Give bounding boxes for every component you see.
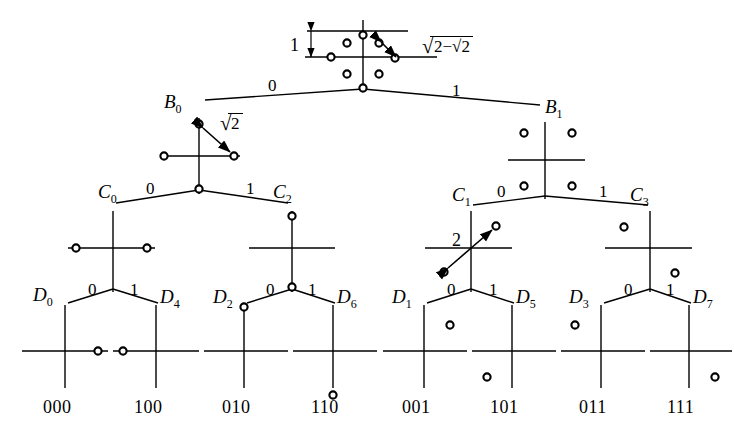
branch-label-C0-to-D0: 0 [88, 281, 97, 298]
node-letter-D2: D [213, 286, 227, 307]
node-letter-D7: D [693, 286, 707, 307]
node-sub-D4: 4 [174, 297, 180, 311]
node-sub-D2: 2 [227, 297, 233, 311]
node-letter-B0: B [164, 91, 176, 112]
constellation-B1 [508, 122, 585, 199]
node-label-D1: D1 [392, 287, 412, 310]
branch-label-C0-to-D4: 1 [130, 281, 139, 298]
constellation-C1 [425, 211, 512, 292]
node-sub-B1: 1 [557, 107, 563, 121]
leaf-code-D4: 100 [134, 398, 163, 416]
leaf-code-D0: 000 [43, 398, 72, 416]
node-label-D2: D2 [213, 287, 233, 310]
root-distance-label: √ 2−√2 [430, 36, 473, 55]
constellation-root [305, 20, 437, 92]
branch-label-B0-to-C0: 0 [146, 180, 155, 197]
node-letter-D5: D [516, 286, 530, 307]
node-letter-D1: D [392, 286, 406, 307]
node-letter-B1: B [545, 96, 557, 117]
node-label-D4: D4 [160, 287, 180, 310]
node-letter-D4: D [160, 286, 174, 307]
node-label-C0: C0 [98, 182, 117, 205]
branch-label-C1-to-D1: 0 [447, 281, 456, 298]
constellation-C0 [68, 211, 155, 292]
node-label-C2: C2 [273, 182, 292, 205]
leaf-code-D3: 011 [579, 398, 607, 416]
branch-label-B0-to-C2: 1 [246, 180, 255, 197]
node-letter-C3: C [630, 184, 643, 205]
branch-label-B1-to-C3: 1 [599, 183, 608, 200]
branch-label-C1-to-D5: 1 [489, 281, 498, 298]
node-letter-D0: D [33, 284, 47, 305]
branch-label-C2-to-D2: 0 [266, 281, 275, 298]
node-sub-C2: 2 [286, 192, 292, 206]
branch-label-B1-to-C1: 0 [497, 183, 506, 200]
B0-distance-label: √ 2 [228, 113, 243, 132]
node-sub-C1: 1 [465, 195, 471, 209]
node-sub-C3: 3 [643, 195, 649, 209]
node-sub-C0: 0 [111, 192, 117, 206]
C1-distance-label: 2 [452, 231, 461, 249]
tree-diagram-svg [0, 0, 734, 428]
node-label-D5: D5 [516, 287, 536, 310]
branch-label-root-to-B0: 0 [268, 77, 277, 94]
leaf-code-D1: 001 [402, 398, 431, 416]
node-sub-D3: 3 [583, 297, 589, 311]
node-label-C1: C1 [452, 185, 471, 208]
constellations-D [22, 303, 732, 398]
root-vertical-measure-label: 1 [290, 36, 299, 54]
node-sub-D7: 7 [707, 297, 713, 311]
node-letter-C2: C [273, 181, 286, 202]
branch-label-C3-to-D3: 0 [624, 281, 633, 298]
node-label-C3: C3 [630, 185, 649, 208]
node-sub-D5: 5 [530, 297, 536, 311]
node-sub-B0: 0 [176, 102, 182, 116]
branch-label-C3-to-D7: 1 [666, 281, 675, 298]
root-distance-radicand: 2−√2 [434, 37, 470, 56]
node-sub-D0: 0 [47, 295, 53, 309]
leaf-code-D2: 010 [222, 398, 251, 416]
tree-edges [68, 89, 691, 303]
node-label-D7: D7 [693, 287, 713, 310]
node-label-D0: D0 [33, 285, 53, 308]
node-letter-C0: C [98, 181, 111, 202]
node-label-B1: B1 [545, 97, 563, 120]
node-label-D6: D6 [337, 287, 357, 310]
node-label-B0: B0 [164, 92, 182, 115]
figure-canvas: √ 2−√2 1 0 1 B0 B1 √ 2 0 1 0 1 C0 C2 C1 … [0, 0, 734, 428]
leaf-code-D6: 110 [311, 398, 339, 416]
branch-label-root-to-B1: 1 [452, 82, 461, 99]
B0-distance-radicand: 2 [231, 114, 240, 133]
branch-label-C2-to-D6: 1 [308, 281, 317, 298]
node-letter-D3: D [569, 286, 583, 307]
leaf-code-D7: 111 [667, 398, 694, 416]
constellation-C2 [249, 211, 335, 292]
constellation-C3 [605, 211, 692, 292]
node-sub-D1: 1 [406, 297, 412, 311]
node-sub-D6: 6 [351, 297, 357, 311]
node-letter-D6: D [337, 286, 351, 307]
leaf-code-D5: 101 [490, 398, 519, 416]
node-label-D3: D3 [569, 287, 589, 310]
node-letter-C1: C [452, 184, 465, 205]
